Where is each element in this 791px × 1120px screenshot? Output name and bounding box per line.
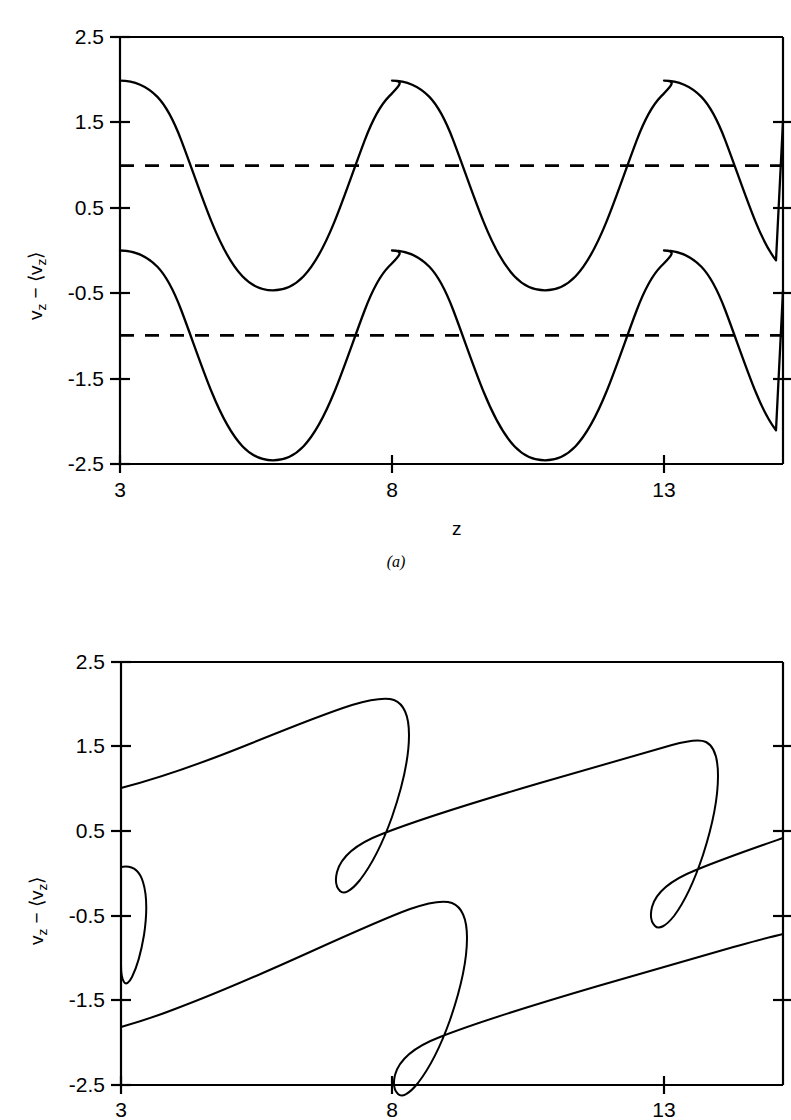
xtick-label-b-2: 13 [652, 1098, 675, 1120]
y-axis-title-a-text: vz − ⟨vz⟩ [25, 252, 46, 320]
panel-a: 2.5 1.5 0.5 -0.5 -1.5 -2.5 3 8 13 vz − ⟨… [0, 0, 791, 595]
curve-lower-a [120, 251, 783, 461]
ytick-label-b-5: -2.5 [39, 1073, 105, 1097]
ytick-label-b-0: 2.5 [47, 650, 105, 674]
plot-a-frame [120, 37, 783, 464]
curve-upper-a [120, 81, 783, 291]
ytick-label-b-2: 0.5 [47, 819, 105, 843]
xtick-label-b-0: 3 [115, 1098, 127, 1120]
panel-b: 2.5 1.5 0.5 -0.5 -1.5 -2.5 3 8 13 vz − ⟨… [0, 595, 791, 1120]
xtick-label-a-1: 8 [386, 478, 398, 502]
panel-caption-a: (a) [387, 553, 406, 571]
xtick-label-b-1: 8 [386, 1098, 398, 1120]
figure-root: 2.5 1.5 0.5 -0.5 -1.5 -2.5 3 8 13 vz − ⟨… [0, 0, 791, 1120]
y-axis-title-b: vz − ⟨vz⟩ [25, 877, 50, 945]
reference-lines-a [120, 166, 783, 336]
xtick-label-a-2: 13 [652, 478, 675, 502]
ytick-label-a-0: 2.5 [46, 25, 104, 49]
plot-b-canvas [0, 595, 791, 1120]
ytick-label-a-2: 0.5 [46, 196, 104, 220]
ytick-label-b-4: -1.5 [39, 988, 105, 1012]
xtick-label-a-0: 3 [114, 478, 126, 502]
plot-b-frame [121, 662, 783, 1085]
ytick-label-a-1: 1.5 [46, 110, 104, 134]
y-axis-title-b-text: vz − ⟨vz⟩ [26, 877, 47, 945]
ytick-label-a-4: -1.5 [38, 367, 104, 391]
plot-a-canvas [0, 0, 791, 595]
ytick-label-b-1: 1.5 [47, 734, 105, 758]
x-axis-title-a: z [452, 518, 462, 540]
ytick-label-a-5: -2.5 [38, 452, 104, 476]
curve-upper-b [121, 699, 783, 928]
y-axis-title-a: vz − ⟨vz⟩ [24, 252, 49, 320]
